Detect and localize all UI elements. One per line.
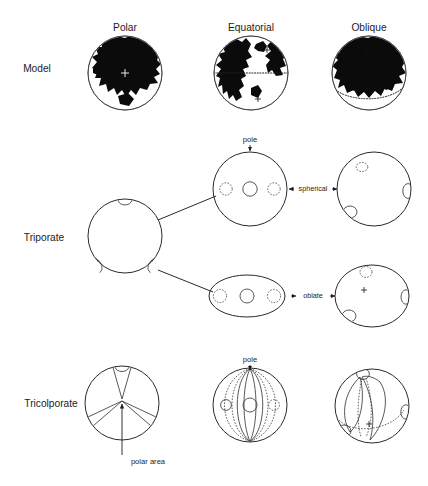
figure-canvas: Polar Equatorial Oblique Model Triporate… bbox=[0, 0, 428, 486]
label-polar-area: polar area bbox=[131, 457, 166, 466]
pore-right-edge bbox=[403, 184, 413, 199]
label-pole-triporate: pole bbox=[243, 135, 257, 144]
triporate-equatorial-spherical: pole bbox=[213, 135, 287, 226]
shape-label-oblate: oblate bbox=[291, 291, 335, 300]
pore-lower-right bbox=[148, 259, 155, 273]
tricolporate-polar-view: polar area bbox=[85, 366, 166, 466]
pore-right-hidden bbox=[268, 183, 280, 195]
colpus-front bbox=[244, 369, 256, 442]
triporate-oblique-oblate bbox=[335, 265, 411, 327]
pore-center bbox=[240, 289, 254, 303]
pore-center bbox=[243, 182, 257, 196]
shape-label-spherical: spherical bbox=[289, 184, 337, 193]
globe-model-oblique bbox=[332, 35, 406, 110]
colpus-top bbox=[113, 368, 131, 400]
center-cross bbox=[366, 421, 372, 427]
row-label-model: Model bbox=[23, 63, 51, 74]
pore-upper-left bbox=[356, 162, 368, 171]
pore-center bbox=[243, 398, 257, 412]
globe-model-equatorial bbox=[214, 36, 288, 110]
pore-left-hidden bbox=[220, 183, 232, 195]
label-pole-tricolporate: pole bbox=[243, 355, 257, 364]
triporate-polar-view bbox=[88, 199, 162, 273]
column-header-equatorial: Equatorial bbox=[228, 22, 274, 33]
tricolporate-equatorial-view: pole bbox=[213, 355, 287, 442]
globe-model-polar bbox=[88, 35, 162, 110]
pore-upper-hidden bbox=[360, 267, 372, 278]
pore-top bbox=[118, 200, 132, 205]
connector-to-oblate bbox=[158, 270, 213, 292]
row-label-triporate: Triporate bbox=[24, 232, 65, 243]
shape-spherical-text: spherical bbox=[299, 184, 328, 193]
column-header-polar: Polar bbox=[113, 22, 137, 33]
colpus-lower-right bbox=[122, 401, 156, 429]
shape-oblate-text: oblate bbox=[303, 291, 323, 300]
colpus-left bbox=[345, 377, 363, 432]
colpus-lower-left bbox=[88, 401, 122, 429]
triporate-equatorial-oblate bbox=[209, 275, 285, 317]
pore-right-hidden bbox=[267, 289, 280, 302]
pore-left-hidden bbox=[213, 289, 226, 302]
colpus-left-hidden bbox=[232, 369, 250, 442]
pore-left bbox=[221, 400, 232, 411]
column-header-oblique: Oblique bbox=[351, 22, 386, 33]
triporate-oblique-spherical bbox=[337, 152, 413, 226]
pollen-orientation-figure: Polar Equatorial Oblique Model Triporate… bbox=[0, 0, 428, 486]
tricolporate-oblique-view bbox=[335, 369, 411, 443]
pore-right-hidden bbox=[269, 400, 280, 411]
row-label-tricolporate: Tricolporate bbox=[24, 398, 78, 409]
colpus-right-hidden bbox=[250, 369, 268, 442]
center-cross bbox=[361, 287, 367, 293]
pore-right-edge bbox=[401, 290, 411, 304]
connector-to-spherical bbox=[158, 196, 216, 220]
pore-lower-left bbox=[96, 259, 103, 273]
pore-top bbox=[115, 367, 129, 372]
colpus-right bbox=[362, 376, 385, 440]
